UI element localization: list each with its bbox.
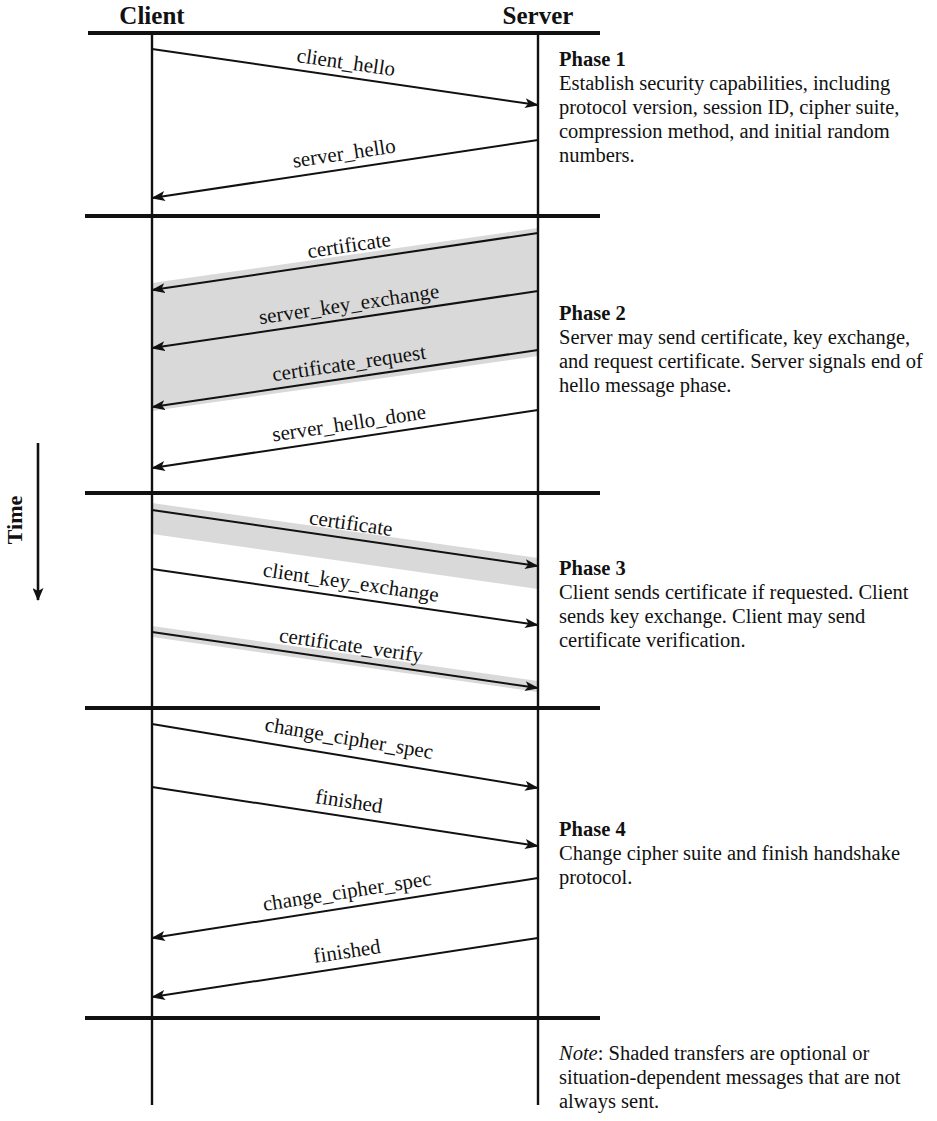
- phase-description-2: Server may send certificate, key exchang…: [559, 326, 931, 398]
- message-label-server-hello: server_hello: [291, 133, 397, 172]
- note-label: Note: [559, 1042, 598, 1064]
- phase-title-2: Phase 2: [559, 302, 931, 326]
- phase-description-1: Establish security capabilities, includi…: [559, 72, 931, 168]
- message-client-hello: client_hello: [152, 43, 538, 105]
- phase-title-1: Phase 1: [559, 48, 931, 72]
- message-label-server-hello-done: server_hello_done: [270, 400, 427, 447]
- note-block: Note: Shaded transfers are optional or s…: [559, 1042, 931, 1114]
- time-axis-label: Time: [2, 496, 27, 545]
- message-server-hello-done: server_hello_done: [152, 400, 538, 468]
- note-separator: :: [598, 1042, 609, 1064]
- note-text: Shaded transfers are optional or situati…: [559, 1042, 901, 1112]
- phase-title-3: Phase 3: [559, 557, 931, 581]
- phase-block-1: Phase 1 Establish security capabilities,…: [559, 48, 931, 168]
- phase-block-4: Phase 4 Change cipher suite and finish h…: [559, 818, 931, 890]
- phase-title-4: Phase 4: [559, 818, 931, 842]
- tls-handshake-diagram: Client Server Time client_hello server_h…: [0, 0, 937, 1121]
- time-axis: Time: [2, 443, 38, 600]
- phase-block-3: Phase 3 Client sends certificate if requ…: [559, 557, 931, 653]
- message-finished-s2c: finished: [152, 934, 538, 997]
- message-change-cipher-spec-s2c: change_cipher_spec: [152, 866, 538, 938]
- actor-label-client: Client: [119, 2, 185, 29]
- message-server-hello: server_hello: [152, 133, 538, 198]
- phase-block-2: Phase 2 Server may send certificate, key…: [559, 302, 931, 398]
- phase-description-3: Client sends certificate if requested. C…: [559, 581, 931, 653]
- message-finished-c2s: finished: [152, 784, 538, 846]
- message-label-client-hello: client_hello: [295, 43, 397, 81]
- phase-description-4: Change cipher suite and finish handshake…: [559, 842, 931, 890]
- actor-label-server: Server: [503, 2, 574, 29]
- message-change-cipher-spec-c2s: change_cipher_spec: [152, 712, 538, 788]
